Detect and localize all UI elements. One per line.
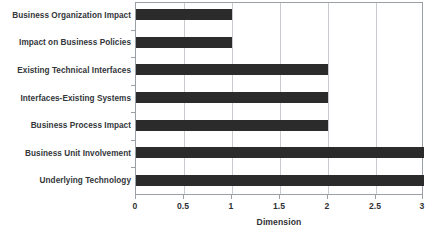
bar (136, 175, 424, 186)
category-label: Business Process Impact (0, 121, 131, 131)
bar (136, 64, 328, 75)
value-tick-label: 0.5 (163, 201, 203, 212)
bar-chart-figure: Business Organization ImpactImpact on Bu… (0, 0, 433, 241)
value-tick (231, 195, 232, 199)
category-label: Business Unit Involvement (0, 149, 131, 159)
bar (136, 92, 328, 103)
bar (136, 120, 328, 131)
value-tick-label: 1 (211, 201, 251, 212)
category-label: Impact on Business Policies (0, 38, 131, 48)
bar (136, 37, 232, 48)
value-tick (279, 195, 280, 199)
value-tick-label: 0 (115, 201, 155, 212)
category-axis-labels: Business Organization ImpactImpact on Bu… (0, 2, 131, 195)
value-tick-label: 2.5 (355, 201, 395, 212)
value-tick-label: 3 (402, 201, 433, 212)
value-tick (375, 195, 376, 199)
category-label: Existing Technical Interfaces (0, 66, 131, 76)
value-tick (183, 195, 184, 199)
plot-area (135, 2, 423, 195)
value-axis-ticks (135, 195, 423, 200)
category-label: Interfaces-Existing Systems (0, 94, 131, 104)
value-tick (135, 195, 136, 199)
value-tick-label: 1.5 (259, 201, 299, 212)
value-axis-tick-labels: 00.511.522.53 (135, 201, 423, 213)
category-label: Underlying Technology (0, 176, 131, 186)
value-tick-label: 2 (307, 201, 347, 212)
x-axis-title: Dimension (135, 217, 423, 227)
category-label: Business Organization Impact (0, 11, 131, 21)
value-tick (327, 195, 328, 199)
bar-series (136, 3, 422, 194)
bar (136, 9, 232, 20)
bar (136, 147, 424, 158)
value-tick (422, 195, 423, 199)
